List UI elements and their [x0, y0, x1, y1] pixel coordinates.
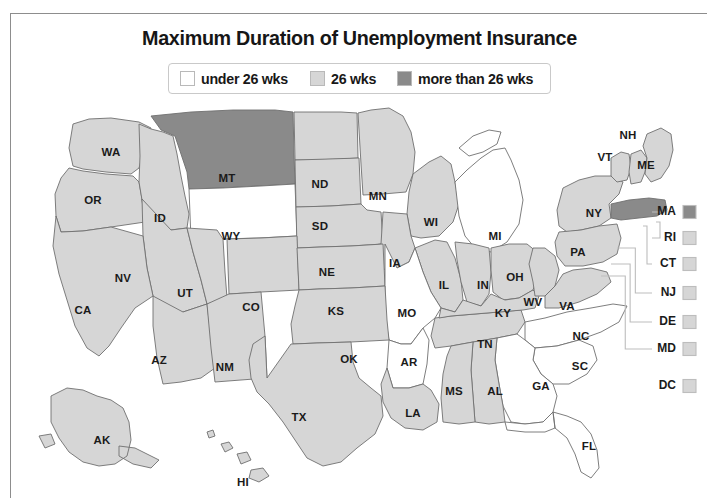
state-label-mt: MT [218, 172, 235, 184]
state-label-nm: NM [216, 361, 234, 373]
callout-swatch-de[interactable] [683, 316, 696, 329]
state-label-mo: MO [398, 307, 417, 319]
state-ak[interactable] [39, 388, 159, 468]
state-label-mn: MN [369, 190, 387, 202]
state-co[interactable] [227, 236, 299, 294]
state-label-tx: TX [291, 411, 306, 423]
legend-swatch-under-26 [180, 71, 195, 86]
map-svg: WAORIDMTWYNDSDMNWIMINVUTCONEIAILINOHCAAZ… [11, 96, 708, 496]
map-legend: under 26 wks 26 wks more than 26 wks [168, 63, 551, 94]
callout-label-md: MD [657, 341, 676, 355]
legend-swatch-26 [310, 71, 325, 86]
state-ms[interactable] [441, 342, 475, 424]
callout-swatch-ri[interactable] [683, 232, 696, 245]
legend-swatch-more-than-26 [397, 71, 412, 86]
state-label-ca: CA [74, 304, 91, 316]
state-label-nc: NC [572, 330, 589, 342]
legend-item-26: 26 wks [310, 70, 378, 87]
state-label-ia: IA [389, 257, 401, 269]
state-label-ne: NE [319, 266, 336, 278]
state-label-nv: NV [115, 272, 132, 284]
state-nd[interactable] [294, 112, 358, 160]
state-label-me: ME [637, 159, 655, 171]
state-label-oh: OH [506, 271, 524, 283]
callout-leader-ri [652, 222, 660, 238]
state-label-wv: WV [524, 296, 543, 308]
state-label-ny: NY [586, 207, 603, 219]
callout-leader-ct [643, 226, 652, 264]
state-label-vt: VT [597, 151, 612, 163]
callout-label-ma: MA [657, 204, 676, 218]
state-label-id: ID [154, 212, 166, 224]
callout-swatch-dc[interactable] [683, 380, 696, 393]
legend-label-under-26: under 26 wks [201, 70, 288, 87]
state-label-ok: OK [340, 353, 358, 365]
legend-item-more-than-26: more than 26 wks [397, 70, 539, 87]
state-me[interactable] [643, 128, 673, 182]
state-label-wi: WI [424, 216, 438, 228]
state-label-fl: FL [582, 440, 596, 452]
state-label-ak: AK [93, 434, 111, 446]
state-label-ut: UT [177, 287, 193, 299]
state-label-in: IN [477, 279, 489, 291]
state-label-il: IL [439, 279, 450, 291]
legend-item-under-26: under 26 wks [180, 70, 292, 87]
callout-label-nj: NJ [661, 285, 676, 299]
state-label-tn: TN [477, 338, 493, 350]
state-label-co: CO [242, 301, 260, 313]
state-label-ms: MS [445, 385, 463, 397]
callout-label-ri: RI [664, 230, 676, 244]
state-label-la: LA [405, 407, 421, 419]
state-label-ar: AR [400, 356, 418, 368]
callout-label-ct: CT [660, 256, 677, 270]
callout-swatch-nj[interactable] [683, 287, 696, 300]
callout-swatch-md[interactable] [683, 343, 696, 356]
state-label-nd: ND [311, 178, 328, 190]
state-label-va: VA [559, 300, 575, 312]
state-ks[interactable] [297, 244, 385, 290]
state-label-ky: KY [495, 307, 512, 319]
state-ne[interactable] [296, 204, 383, 248]
callout-swatch-ma[interactable] [683, 206, 696, 219]
state-label-al: AL [487, 385, 503, 397]
callout-label-de: DE [659, 314, 676, 328]
state-label-az: AZ [151, 354, 167, 366]
legend-label-26: 26 wks [331, 70, 376, 87]
state-label-mi: MI [488, 230, 501, 242]
state-label-nh: NH [619, 129, 636, 141]
state-label-or: OR [84, 194, 102, 206]
us-choropleth-map: WAORIDMTWYNDSDMNWIMINVUTCONEIAILINOHCAAZ… [11, 96, 708, 496]
state-label-hi: HI [237, 476, 249, 488]
state-shapes [39, 108, 673, 482]
state-label-wy: WY [222, 230, 241, 242]
callout-swatch-ct[interactable] [683, 258, 696, 271]
state-ca[interactable] [53, 216, 153, 356]
state-label-ks: KS [328, 305, 345, 317]
callout-label-dc: DC [659, 378, 677, 392]
state-label-sc: SC [572, 360, 588, 372]
state-label-pa: PA [570, 246, 586, 258]
state-label-wa: WA [102, 146, 121, 158]
state-label-ga: GA [532, 380, 550, 392]
state-hi[interactable] [207, 430, 269, 482]
legend-label-more-than-26: more than 26 wks [418, 70, 533, 87]
state-tx[interactable] [249, 336, 383, 466]
figure-frame: Maximum Duration of Unemployment Insuran… [10, 13, 707, 498]
state-label-sd: SD [312, 220, 328, 232]
page-title: Maximum Duration of Unemployment Insuran… [32, 26, 687, 50]
state-vt[interactable] [611, 152, 631, 182]
state-mn[interactable] [358, 108, 415, 195]
